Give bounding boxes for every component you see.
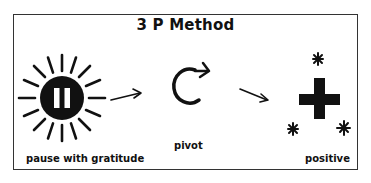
arrow-right-icon xyxy=(111,89,141,100)
sun-pause-icon xyxy=(19,55,105,141)
plus-sparkle-icon xyxy=(288,53,350,135)
step-label-pause: pause with gratitude xyxy=(26,153,144,164)
step-label-positive: positive xyxy=(305,153,350,164)
circular-arrow-icon xyxy=(174,63,209,103)
step-label-pivot: pivot xyxy=(174,140,203,151)
arrow-down-right-icon xyxy=(240,89,268,102)
